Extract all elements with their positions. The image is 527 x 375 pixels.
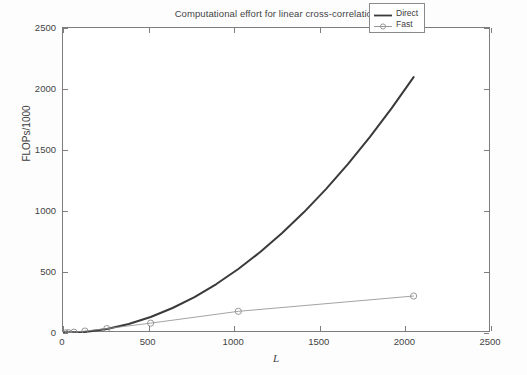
legend-label-fast: Fast [396, 19, 413, 29]
y-tick-mark-right [484, 150, 489, 151]
y-tick-mark-right [484, 89, 489, 90]
x-tick-mark-top [320, 28, 321, 33]
y-tick-mark [63, 333, 68, 334]
y-tick-mark-right [484, 211, 489, 212]
chart-legend: Direct Fast [369, 3, 425, 33]
legend-item-direct: Direct [373, 7, 420, 18]
y-tick-mark [63, 28, 68, 29]
x-tick-mark [405, 326, 406, 331]
x-tick-mark [491, 326, 492, 331]
y-tick-label: 500 [14, 266, 56, 277]
x-tick-mark [320, 326, 321, 331]
y-tick-label: 2500 [14, 22, 56, 33]
x-tick-mark [63, 326, 64, 331]
y-tick-mark [63, 89, 68, 90]
x-tick-label: 1000 [223, 336, 244, 347]
y-tick-label: 2000 [14, 83, 56, 94]
y-tick-mark [63, 150, 68, 151]
y-tick-mark [63, 211, 68, 212]
chart-title: Computational effort for linear cross-co… [62, 8, 490, 19]
x-tick-mark [234, 326, 235, 331]
x-tick-label: 1500 [308, 336, 329, 347]
y-tick-mark [63, 272, 68, 273]
x-tick-label: 0 [59, 336, 64, 347]
y-tick-mark-right [484, 28, 489, 29]
x-tick-mark-top [149, 28, 150, 33]
legend-label-direct: Direct [396, 8, 418, 18]
y-axis-label: FLOPs/1000 [21, 84, 32, 184]
x-tick-label: 2000 [394, 336, 415, 347]
x-tick-mark [149, 326, 150, 331]
legend-item-fast: Fast [373, 18, 420, 29]
plot-area [62, 27, 490, 332]
figure-canvas: Computational effort for linear cross-co… [0, 0, 527, 375]
series-line-direct [63, 77, 414, 333]
y-tick-label: 1500 [14, 144, 56, 155]
x-tick-mark-top [234, 28, 235, 33]
y-tick-label: 0 [14, 327, 56, 338]
legend-swatch-fast [373, 18, 393, 29]
x-tick-label: 2500 [479, 336, 500, 347]
plot-svg [63, 28, 491, 333]
x-axis-label: L [62, 352, 490, 364]
y-tick-label: 1000 [14, 205, 56, 216]
y-tick-mark-right [484, 272, 489, 273]
legend-swatch-direct [373, 7, 393, 18]
x-tick-label: 500 [140, 336, 156, 347]
x-tick-mark-top [491, 28, 492, 33]
y-tick-mark-right [484, 333, 489, 334]
